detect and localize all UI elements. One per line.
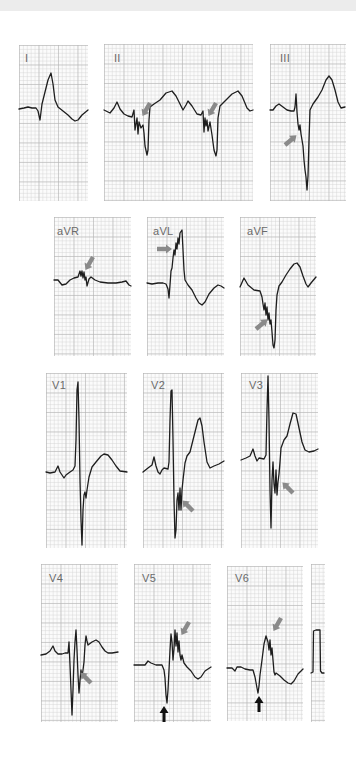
lead-panel-aVL xyxy=(147,217,224,356)
lead-label-aVF: aVF xyxy=(247,225,268,237)
lead-label-V3: V3 xyxy=(249,379,263,391)
top-bar xyxy=(0,0,356,11)
lead-label-V2: V2 xyxy=(151,379,165,391)
lead-label-III: III xyxy=(280,52,290,64)
lead-panel-aVF xyxy=(240,217,316,356)
lead-panel-V2 xyxy=(143,373,224,548)
lead-panel-III xyxy=(270,44,346,201)
lead-label-aVL: aVL xyxy=(153,225,173,237)
lead-panel-V3 xyxy=(241,373,318,548)
lead-label-aVR: aVR xyxy=(57,225,79,237)
lead-panel-V5 xyxy=(134,564,211,722)
lead-label-V5: V5 xyxy=(142,572,156,584)
lead-panel-V4 xyxy=(41,564,118,722)
calibration-strip xyxy=(311,564,325,722)
lead-panel-aVR xyxy=(54,217,131,356)
lead-label-V6: V6 xyxy=(235,572,249,584)
lead-panel-I xyxy=(19,45,88,201)
lead-label-I: I xyxy=(25,52,28,64)
lead-label-V4: V4 xyxy=(49,572,63,584)
lead-label-II: II xyxy=(114,52,121,64)
lead-panel-V1 xyxy=(46,373,127,548)
lead-panel-II xyxy=(104,44,253,201)
lead-label-V1: V1 xyxy=(52,379,66,391)
lead-panel-V6 xyxy=(227,566,303,721)
